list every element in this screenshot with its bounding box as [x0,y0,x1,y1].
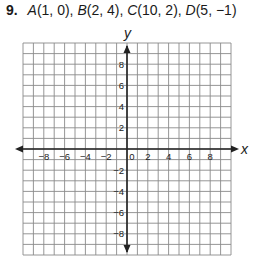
y-tick-label: −8 [113,228,124,239]
x-axis-label: x [240,141,249,157]
x-tick-label: 8 [208,151,213,162]
coordinate-plane: −8−6−4−2024688642−2−4−6−8 x y [0,0,259,262]
y-tick-label: 8 [119,59,124,70]
y-axis-label: y [123,25,132,41]
x-tick-label: 6 [187,151,192,162]
y-tick-label: −6 [113,207,124,218]
x-axis-left-arrow-icon [15,146,23,153]
axes [15,45,239,253]
y-tick-label: 6 [119,80,124,91]
x-axis-right-arrow-icon [231,146,239,153]
x-tick-label: −2 [101,151,112,162]
y-axis-up-arrow-icon [124,45,131,53]
x-tick-label: 2 [145,151,150,162]
x-tick-label: −6 [59,151,70,162]
x-tick-label: 0 [129,151,134,162]
x-tick-label: −4 [80,151,91,162]
y-axis-down-arrow-icon [124,245,131,253]
y-tick-label: −2 [113,165,124,176]
y-tick-label: −4 [113,186,124,197]
y-tick-label: 4 [119,101,124,112]
x-tick-label: 4 [166,151,171,162]
y-tick-label: 2 [119,122,124,133]
x-tick-label: −8 [38,151,49,162]
